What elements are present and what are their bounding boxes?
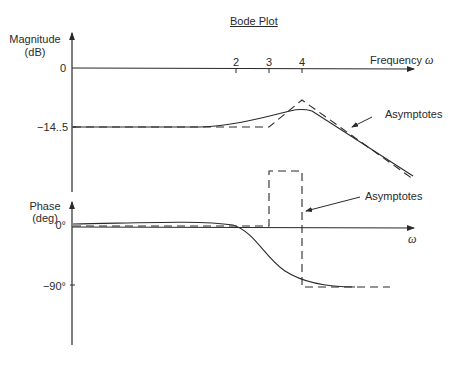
phase-asymptotes-label: Asymptotes (365, 190, 422, 202)
phase-x-symbol: ω (408, 233, 416, 245)
chart-title: Bode Plot (230, 15, 278, 27)
magnitude-ytick-0: 0 (20, 62, 66, 74)
magnitude-ylabel: Magnitude (2, 33, 68, 45)
magnitude-asymptotes-label: Asymptotes (385, 108, 442, 120)
magnitude-annotation-arrow (352, 117, 372, 127)
phase-asymptote (73, 171, 390, 287)
xtick-label-3: 3 (259, 56, 279, 68)
frequency-axis (72, 68, 414, 69)
magnitude-ylabel-unit: (dB) (2, 46, 68, 58)
magnitude-ytick-low: −14..5 (10, 121, 68, 133)
omega-symbol: ω (425, 53, 433, 67)
phase-annotation-arrow (306, 197, 360, 211)
bode-plot-figure: Bode Plot Magnitude (dB) 0 −14..5 2 3 4 … (0, 0, 459, 368)
phase-ylabel: Phase (20, 200, 70, 212)
xtick-label-2: 2 (226, 56, 246, 68)
frequency-label-text: Frequency (370, 54, 422, 66)
magnitude-curve (73, 110, 413, 177)
phase-ytick-low: −90° (20, 280, 66, 292)
phase-curve (73, 222, 355, 287)
xtick-label-4: 4 (292, 56, 312, 68)
magnitude-asymptote (73, 100, 413, 179)
frequency-axis-label: Frequency ω (370, 54, 434, 66)
phase-x-axis (72, 227, 414, 228)
phase-ytick-0: 0° (20, 219, 66, 231)
